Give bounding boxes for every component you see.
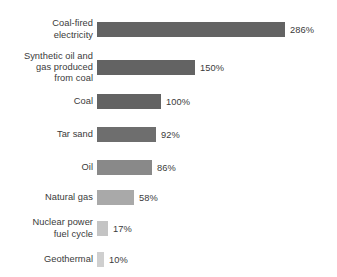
chart-row: Coal100% [0,94,337,109]
bar-value-label: 92% [161,130,180,140]
bar-group: 286% [97,22,314,37]
bar-group: 58% [97,190,158,205]
bar-category-label: Nuclear power fuel cycle [0,217,93,239]
bar-category-label: Natural gas [0,192,93,203]
chart-row: Geothermal10% [0,252,337,267]
bar-group: 92% [97,127,180,142]
bar-category-label: Coal-fired electricity [0,18,93,40]
chart-row: Oil86% [0,160,337,175]
bar-category-label: Tar sand [0,129,93,140]
bar-category-label: Oil [0,162,93,173]
bar-value-label: 100% [166,97,190,107]
bar [97,160,152,175]
chart-row: Natural gas58% [0,190,337,205]
chart-row: Nuclear power fuel cycle17% [0,221,337,236]
bar-group: 17% [97,221,132,236]
bar-value-label: 286% [290,25,314,35]
bar-category-label: Coal [0,96,93,107]
bar [97,60,195,75]
bar [97,22,285,37]
bar [97,190,134,205]
bar-group: 86% [97,160,176,175]
chart-row: Coal-fired electricity286% [0,22,337,37]
bar-value-label: 10% [109,255,128,265]
bar [97,127,156,142]
chart-row: Tar sand92% [0,127,337,142]
bar [97,252,104,267]
bar-group: 100% [97,94,190,109]
bar-value-label: 58% [139,193,158,203]
bar-value-label: 17% [113,224,132,234]
bar-category-label: Synthetic oil and gas produced from coal [0,51,93,85]
horizontal-bar-chart: Coal-fired electricity286%Synthetic oil … [0,0,337,277]
bar [97,221,108,236]
bar-value-label: 86% [157,163,176,173]
bar-group: 150% [97,60,224,75]
bar [97,94,161,109]
bar-group: 10% [97,252,128,267]
bar-value-label: 150% [200,63,224,73]
chart-row: Synthetic oil and gas produced from coal… [0,60,337,75]
bar-category-label: Geothermal [0,254,93,265]
